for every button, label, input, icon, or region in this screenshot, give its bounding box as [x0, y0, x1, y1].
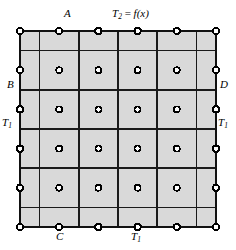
node	[135, 146, 141, 152]
node	[135, 67, 141, 73]
node	[135, 106, 141, 112]
node	[56, 28, 62, 34]
node	[135, 185, 141, 191]
label-T1-bottom-subscript: 1	[137, 235, 141, 244]
node	[95, 28, 101, 34]
label-T1-right-subscript: 1	[224, 121, 228, 130]
mesh-canvas	[0, 0, 236, 250]
label-corner-D: D	[220, 79, 228, 90]
node	[213, 224, 219, 230]
node	[56, 67, 62, 73]
label-corner-A: A	[64, 8, 71, 19]
node	[95, 106, 101, 112]
label-T2-subscript: 2	[118, 12, 122, 21]
node	[174, 28, 180, 34]
node	[95, 185, 101, 191]
node	[174, 146, 180, 152]
node	[17, 224, 23, 230]
node	[174, 224, 180, 230]
node	[56, 146, 62, 152]
label-corner-A-text: A	[64, 7, 71, 19]
label-corner-C: C	[56, 231, 63, 242]
node	[17, 145, 23, 151]
node	[56, 106, 62, 112]
mesh-figure: A T2 = f(x) B D T1 T1 C T1	[0, 0, 236, 250]
node	[213, 145, 219, 151]
node	[17, 185, 23, 191]
label-T1-left-subscript: 1	[8, 121, 12, 130]
label-top-boundary-condition: T2 = f(x)	[112, 8, 149, 19]
node	[174, 67, 180, 73]
label-corner-B: B	[7, 79, 14, 90]
label-corner-B-text: B	[7, 78, 14, 90]
node	[17, 28, 23, 34]
label-T2-equals: =	[122, 7, 134, 19]
label-corner-C-text: C	[56, 230, 63, 242]
label-corner-D-text: D	[220, 78, 228, 90]
label-T2-function: f(x)	[134, 7, 149, 19]
node	[95, 224, 101, 230]
node	[17, 67, 23, 73]
label-left-boundary-condition: T1	[2, 117, 12, 128]
node	[95, 146, 101, 152]
node	[134, 28, 140, 34]
label-right-boundary-condition: T1	[218, 117, 228, 128]
node	[213, 67, 219, 73]
node	[17, 106, 23, 112]
node	[213, 106, 219, 112]
node	[56, 185, 62, 191]
node	[213, 185, 219, 191]
node	[95, 67, 101, 73]
node	[174, 185, 180, 191]
node	[174, 106, 180, 112]
node	[213, 28, 219, 34]
label-bottom-boundary-condition: T1	[131, 231, 141, 242]
